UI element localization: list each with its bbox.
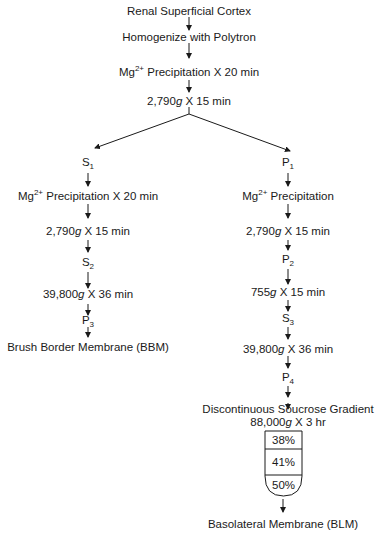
step-centrifuge-2790: 2,790g X 15 min [147,95,231,108]
gradient-layer-38: 38% [265,434,302,446]
step-centrifuge-88000: 88,000g X 3 hr [250,416,325,429]
result-bbm: Brush Border Membrane (BBM) [7,341,169,354]
fraction-p4: P4 [282,371,294,384]
step-right-centrifuge-39800: 39,800g X 36 min [243,343,333,356]
step-sucrose-gradient: Discontinuous Soucrose Gradient [202,403,373,416]
connector-arrows [0,0,389,544]
sucrose-gradient-tube: 38% 41% 50% [265,431,302,496]
gradient-layer-41: 41% [265,456,302,468]
fraction-s1: S1 [82,156,94,169]
step-renal-cortex: Renal Superficial Cortex [127,5,251,18]
step-left-centrifuge-2790: 2,790g X 15 min [46,225,130,238]
step-right-mg-precipitation: Mg2+ Precipitation [242,190,334,203]
step-mg-precipitation: Mg2+ Precipitation X 20 min [119,66,259,79]
step-left-mg-precipitation: Mg2+ Precipitation X 20 min [18,190,158,203]
fraction-s3: S3 [282,312,294,325]
step-right-centrifuge-755: 755g X 15 min [251,286,325,299]
step-homogenize: Homogenize with Polytron [122,31,256,44]
result-blm: Basolateral Membrane (BLM) [208,518,358,531]
fraction-p2: P2 [282,253,294,266]
step-right-centrifuge-2790: 2,790g X 15 min [246,225,330,238]
fraction-s2: S2 [82,256,94,269]
fraction-p3: P3 [82,314,94,327]
gradient-layer-50: 50% [265,479,302,491]
step-left-centrifuge-39800: 39,800g X 36 min [43,288,133,301]
fraction-p1: P1 [282,156,294,169]
